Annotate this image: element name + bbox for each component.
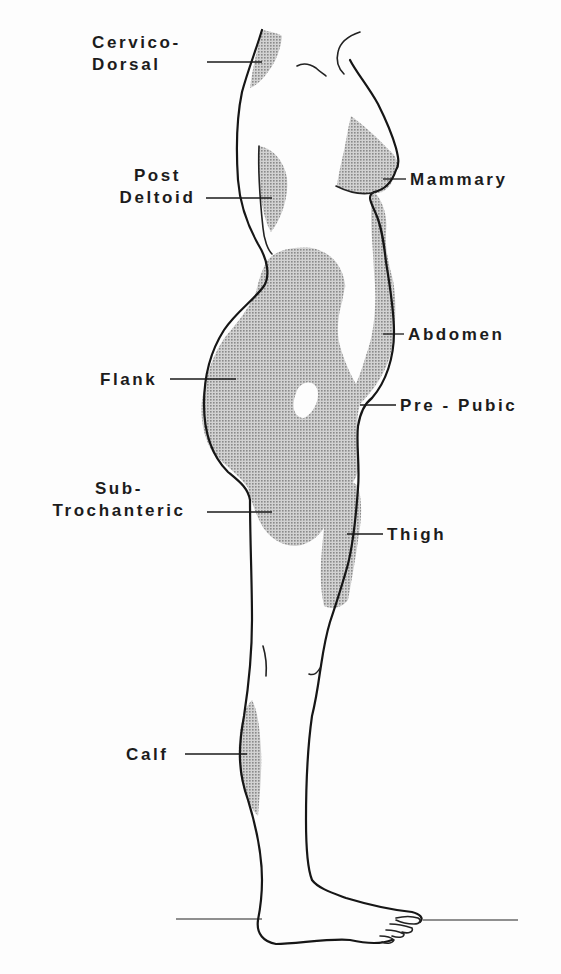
region-calf	[239, 700, 262, 816]
toe-3	[386, 930, 404, 937]
label-line: Flank	[100, 369, 157, 391]
label-line: Sub-	[38, 478, 200, 500]
toe-1	[396, 917, 420, 925]
label-line: Abdomen	[408, 324, 505, 346]
label-line: Trochanteric	[38, 500, 200, 522]
clavicle-line	[297, 64, 326, 76]
label-thigh: Thigh	[387, 524, 446, 546]
label-post-deltoid: Post Deltoid	[110, 165, 205, 209]
label-line: Mammary	[410, 169, 508, 191]
knee-crease-back	[263, 646, 266, 676]
label-line: Calf	[126, 744, 169, 766]
label-sub-trochanteric: Sub- Trochanteric	[38, 478, 200, 522]
knee-crease-front	[309, 668, 320, 675]
label-flank: Flank	[100, 369, 157, 391]
label-line: Thigh	[387, 524, 446, 546]
label-line: Cervico-	[92, 32, 181, 54]
jaw-line	[337, 32, 360, 74]
label-line: Pre - Pubic	[400, 395, 517, 417]
label-mammary: Mammary	[410, 169, 508, 191]
label-pre-pubic: Pre - Pubic	[400, 395, 517, 417]
toe-2	[390, 924, 412, 933]
shaded-regions	[202, 30, 398, 816]
label-calf: Calf	[126, 744, 169, 766]
region-post-deltoid	[259, 146, 287, 232]
label-abdomen: Abdomen	[408, 324, 505, 346]
label-cervico-dorsal: Cervico- Dorsal	[92, 32, 181, 76]
label-line: Dorsal	[92, 54, 181, 76]
region-cervico-dorsal	[250, 30, 282, 88]
label-line: Deltoid	[110, 187, 205, 209]
label-line: Post	[110, 165, 205, 187]
